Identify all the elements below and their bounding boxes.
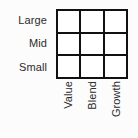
column-label-slot-growth: Growth (104, 81, 128, 138)
row-label-group: Large Mid Small (0, 9, 52, 79)
row-label-small: Small (0, 56, 52, 79)
style-box-grid (56, 9, 128, 79)
cell-large-value[interactable] (58, 11, 79, 32)
column-label-blend: Blend (87, 81, 98, 110)
cell-mid-value[interactable] (58, 34, 79, 55)
column-label-value: Value (63, 81, 74, 109)
cell-large-blend[interactable] (81, 11, 102, 32)
column-label-growth: Growth (111, 81, 122, 117)
cell-mid-growth[interactable] (105, 34, 126, 55)
row-label-mid: Mid (0, 32, 52, 55)
column-label-group: Value Blend Growth (56, 81, 128, 138)
cell-small-growth[interactable] (105, 56, 126, 77)
column-label-slot-blend: Blend (80, 81, 104, 138)
cell-mid-blend[interactable] (81, 34, 102, 55)
style-box-figure: Large Mid Small Value Blend Growth (0, 0, 138, 138)
cell-small-value[interactable] (58, 56, 79, 77)
column-label-slot-value: Value (56, 81, 80, 138)
cell-small-blend[interactable] (81, 56, 102, 77)
row-label-large: Large (0, 9, 52, 32)
cell-large-growth[interactable] (105, 11, 126, 32)
